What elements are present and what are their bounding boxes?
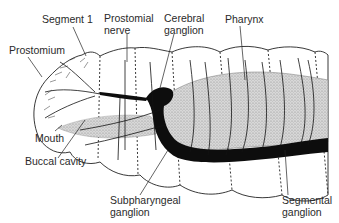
label-prostomium: Prostomium [9,45,65,57]
label-subpharyngeal-ganglion: Subpharyngeal ganglion [110,195,181,218]
buccal-shape [58,115,158,138]
label-segment-1: Segment 1 [42,14,93,26]
label-cerebral-ganglion-line2: ganglion [164,25,204,37]
label-prostomial-nerve-line2: nerve [104,25,154,37]
prostomium-branches [44,58,88,118]
label-segmental-ganglion: Segmental ganglion [282,195,332,218]
label-pharynx: Pharynx [225,14,264,26]
label-mouth: Mouth [35,133,64,145]
label-segmental-ganglion-line1: Segmental [282,195,332,207]
label-cerebral-ganglion: Cerebral ganglion [164,13,204,36]
label-subpharyngeal-ganglion-line2: ganglion [110,207,181,219]
label-buccal-cavity: Buccal cavity [25,156,86,168]
label-segmental-ganglion-line2: ganglion [282,207,332,219]
label-prostomial-nerve-line1: Prostomial [104,13,154,25]
label-subpharyngeal-ganglion-line1: Subpharyngeal [110,195,181,207]
label-cerebral-ganglion-line1: Cerebral [164,13,204,25]
label-prostomial-nerve: Prostomial nerve [104,13,154,36]
